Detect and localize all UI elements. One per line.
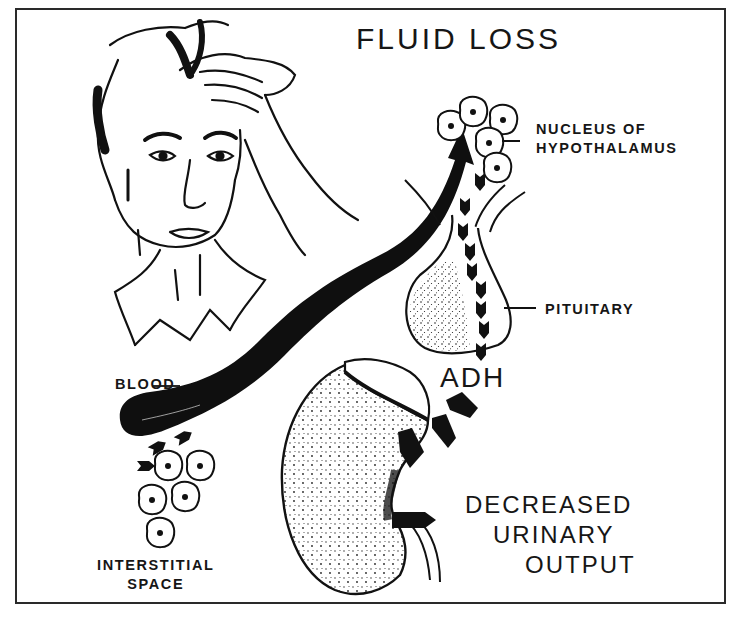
label-line: NUCLEUS OF: [536, 120, 678, 139]
label-nucleus-of-hypothalamus: NUCLEUS OF HYPOTHALAMUS: [536, 120, 678, 158]
label-line: URINARY: [465, 520, 636, 550]
label-line: SPACE: [97, 575, 214, 594]
hypothalamus-neurons: [438, 97, 520, 182]
label-line: HYPOTHALAMUS: [536, 139, 678, 158]
pituitary-gland: [405, 173, 536, 361]
label-blood: BLOOD: [115, 375, 175, 394]
kidney: [282, 359, 478, 594]
label-pituitary: PITUITARY: [545, 300, 634, 319]
figure-title: FLUID LOSS: [356, 22, 561, 56]
label-line: OUTPUT: [465, 550, 636, 580]
label-line: DECREASED: [465, 490, 636, 520]
label-decreased-urinary-output: DECREASED URINARY OUTPUT: [465, 490, 636, 580]
label-line: INTERSTITIAL: [97, 556, 214, 575]
label-adh: ADH: [440, 362, 505, 394]
label-interstitial-space: INTERSTITIAL SPACE: [97, 556, 214, 594]
interstitial-cells: [137, 428, 214, 547]
